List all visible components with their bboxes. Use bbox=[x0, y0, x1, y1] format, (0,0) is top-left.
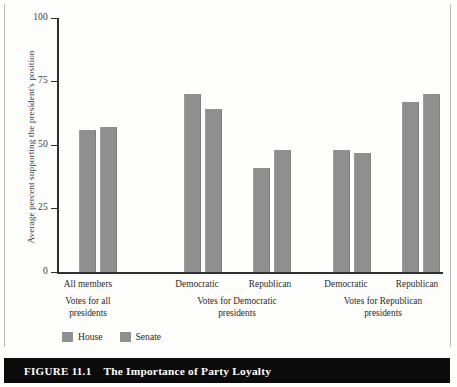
legend-swatch-senate-icon bbox=[120, 332, 131, 342]
bar-dem-under-dem-house bbox=[184, 94, 201, 272]
figure-container: Average percent supporting the president… bbox=[0, 0, 457, 387]
group-label-all-presidents: Votes for all presidents bbox=[48, 296, 128, 319]
legend-item-house: House bbox=[62, 331, 103, 342]
bar-dem-under-dem-senate bbox=[205, 109, 222, 272]
legend-item-senate: Senate bbox=[120, 331, 162, 342]
bar-rep-under-dem-house bbox=[253, 168, 270, 272]
figure-caption-title: The Importance of Party Loyalty bbox=[103, 365, 271, 377]
x-label-all-members: All members bbox=[48, 279, 128, 289]
y-tick-label-100: 100 bbox=[18, 12, 48, 22]
x-label-republican-rep: Republican bbox=[370, 279, 457, 289]
group-label-democratic-presidents: Votes for Democratic presidents bbox=[172, 296, 302, 319]
bar-dem-under-rep-house bbox=[333, 150, 350, 272]
group-label-democratic-presidents-line1: Votes for Democratic bbox=[172, 296, 302, 308]
figure-right-rule bbox=[450, 4, 451, 347]
group-label-republican-presidents-line2: presidents bbox=[318, 308, 448, 320]
y-tick-label-0: 0 bbox=[18, 266, 48, 276]
bar-rep-under-rep-senate bbox=[423, 94, 440, 272]
legend-swatch-house-icon bbox=[62, 332, 73, 342]
y-tick-label-25: 25 bbox=[18, 202, 48, 212]
bar-rep-under-rep-house bbox=[402, 102, 419, 272]
x-axis-line bbox=[57, 272, 443, 274]
chart-legend: House Senate bbox=[62, 331, 161, 342]
figure-caption-bar: FIGURE 11.1 The Importance of Party Loya… bbox=[4, 358, 450, 383]
legend-label-house: House bbox=[78, 331, 103, 342]
y-tick-0 bbox=[51, 272, 58, 273]
legend-label-senate: Senate bbox=[136, 331, 162, 342]
plot-area bbox=[57, 18, 443, 272]
bar-all-members-senate bbox=[100, 127, 117, 272]
figure-left-rule bbox=[4, 4, 5, 347]
group-label-democratic-presidents-line2: presidents bbox=[172, 308, 302, 320]
bar-rep-under-dem-senate bbox=[274, 150, 291, 272]
figure-caption-number: FIGURE 11.1 bbox=[24, 365, 91, 377]
group-label-republican-presidents-line1: Votes for Republican bbox=[318, 296, 448, 308]
y-tick-label-50: 50 bbox=[18, 139, 48, 149]
group-label-republican-presidents: Votes for Republican presidents bbox=[318, 296, 448, 319]
bar-dem-under-rep-senate bbox=[354, 153, 371, 272]
y-tick-label-group: 100 75 50 25 0 bbox=[12, 0, 48, 290]
group-label-all-presidents-line2: presidents bbox=[48, 308, 128, 320]
y-tick-label-75: 75 bbox=[18, 75, 48, 85]
group-label-all-presidents-line1: Votes for all bbox=[48, 296, 128, 308]
bar-all-members-house bbox=[79, 130, 96, 272]
